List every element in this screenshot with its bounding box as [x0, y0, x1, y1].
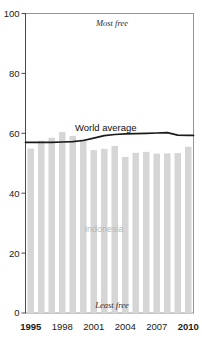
y-tick-label: 20 [9, 248, 20, 259]
y-axis-ticks: 020406080100 [4, 8, 26, 319]
bar [143, 152, 150, 313]
bar [154, 154, 161, 313]
x-tick-label: 2010 [178, 321, 199, 332]
x-axis-ticks: 199519982001200420072010 [20, 321, 199, 332]
x-tick-label: 2001 [83, 321, 104, 332]
bar [70, 136, 77, 313]
economic-freedom-chart: 020406080100 199519982001200420072010 Mo… [0, 0, 202, 350]
y-tick-label: 80 [9, 68, 20, 79]
y-tick-label: 40 [9, 188, 20, 199]
bar [164, 153, 171, 313]
x-tick-label: 1995 [20, 321, 42, 332]
bar [185, 147, 192, 313]
y-tick-label: 60 [9, 128, 20, 139]
chart-canvas: 020406080100 199519982001200420072010 Mo… [0, 0, 202, 350]
indonesia-series-label: Indonesia [84, 224, 123, 234]
bar [38, 141, 45, 313]
bar [28, 149, 35, 313]
bar [48, 138, 55, 313]
bar-series-indonesia [28, 132, 192, 313]
y-tick-label: 100 [4, 8, 20, 19]
bar [175, 153, 182, 313]
most-free-annotation: Most free [95, 18, 128, 28]
x-tick-label: 1998 [52, 321, 73, 332]
bar [133, 153, 140, 313]
least-free-annotation: Least free [94, 300, 129, 310]
world-average-series-label: World average [75, 122, 137, 133]
x-tick-label: 2007 [146, 321, 167, 332]
bar [59, 132, 66, 313]
y-tick-label: 0 [14, 307, 19, 318]
x-tick-label: 2004 [115, 321, 136, 332]
bar [122, 157, 129, 313]
